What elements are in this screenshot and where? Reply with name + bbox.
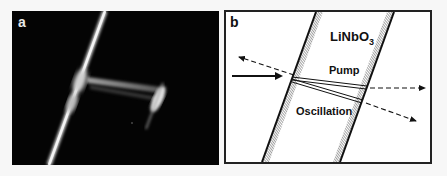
- reflected-beam-arrow: [239, 57, 294, 75]
- pump-label: Pump: [329, 64, 360, 76]
- oscillation-label: Oscillation: [296, 105, 353, 117]
- panel-a-label: a: [18, 15, 26, 29]
- diagram-panel-b: LiNbO3 Pump Oscillation b: [224, 10, 432, 164]
- panel-b-label: b: [230, 15, 239, 29]
- oscillation-exit-arrow: [366, 103, 416, 121]
- photo-panel-a: a: [12, 11, 219, 165]
- photo-illustration: [12, 11, 219, 165]
- oscillation-beam: [292, 79, 363, 103]
- crystal-left-surface: [262, 12, 323, 162]
- crystal-label: LiNbO3: [330, 29, 374, 47]
- pump-beam: [292, 77, 367, 89]
- crystal-diagram: LiNbO3 Pump Oscillation: [226, 12, 430, 162]
